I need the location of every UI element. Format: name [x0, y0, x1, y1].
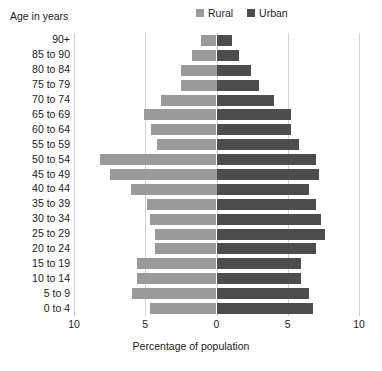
gridline [359, 33, 360, 316]
pyramid-row [74, 109, 359, 120]
bar-rural [132, 288, 216, 299]
bar-urban [217, 124, 291, 135]
pyramid-row [74, 95, 359, 106]
y-axis-tick-label: 60 to 64 [6, 123, 70, 135]
pyramid-row [74, 243, 359, 254]
bar-rural [155, 243, 216, 254]
bar-urban [217, 95, 274, 106]
pyramid-row [74, 273, 359, 284]
y-axis-tick-label: 70 to 74 [6, 93, 70, 105]
bar-urban [217, 303, 314, 314]
x-axis-tick-label: 5 [142, 318, 148, 330]
pyramid-row [74, 169, 359, 180]
bar-rural [144, 109, 217, 120]
bar-rural [137, 273, 217, 284]
pyramid-row [74, 139, 359, 150]
bar-urban [217, 214, 321, 225]
bar-urban [217, 109, 291, 120]
pyramid-row [74, 50, 359, 61]
pyramid-row [74, 303, 359, 314]
legend-label-rural: Rural [208, 8, 233, 19]
bar-urban [217, 199, 317, 210]
bar-rural [131, 184, 217, 195]
plot-area [74, 33, 359, 316]
pyramid-row [74, 35, 359, 46]
y-axis-tick-label: 50 to 54 [6, 153, 70, 165]
bar-rural [201, 35, 217, 46]
y-axis-tick-label: 85 to 90 [6, 48, 70, 60]
y-axis-tick-label: 20 to 24 [6, 242, 70, 254]
bar-rural [150, 303, 217, 314]
y-axis-tick-label: 0 to 4 [6, 302, 70, 314]
bar-rural [150, 214, 217, 225]
x-axis-tick-label: 10 [353, 318, 365, 330]
pyramid-row [74, 199, 359, 210]
pyramid-row [74, 65, 359, 76]
x-axis-tick-label: 5 [285, 318, 291, 330]
bar-rural [100, 154, 217, 165]
y-axis-tick-label: 45 to 49 [6, 168, 70, 180]
y-axis-tick-label: 65 to 69 [6, 108, 70, 120]
y-axis-tick-label: 90+ [6, 33, 70, 45]
bar-rural [157, 139, 217, 150]
y-axis-tick-label: 5 to 9 [6, 287, 70, 299]
pyramid-row [74, 184, 359, 195]
bar-urban [217, 288, 310, 299]
pyramid-row [74, 124, 359, 135]
bar-rural [192, 50, 216, 61]
pyramid-row [74, 80, 359, 91]
x-axis-tick-labels: 1050510 [74, 318, 359, 334]
bar-urban [217, 229, 325, 240]
bar-urban [217, 65, 251, 76]
bar-rural [181, 80, 217, 91]
bar-urban [217, 154, 317, 165]
x-axis-title: Percentage of population [0, 340, 382, 352]
x-axis-tick-label: 10 [68, 318, 80, 330]
bar-urban [217, 139, 300, 150]
y-axis-tick-label: 35 to 39 [6, 197, 70, 209]
bar-urban [217, 184, 310, 195]
y-axis-title: Age in years [10, 10, 68, 22]
y-axis-tick-label: 75 to 79 [6, 78, 70, 90]
y-axis-tick-label: 80 to 84 [6, 63, 70, 75]
bar-rural [137, 258, 217, 269]
y-axis-tick-labels: 90+85 to 9080 to 8475 to 7970 to 7465 to… [4, 33, 70, 316]
bar-rural [181, 65, 217, 76]
legend-swatch-urban [247, 9, 255, 17]
pyramid-row [74, 258, 359, 269]
bar-rural [147, 199, 217, 210]
bar-rural [155, 229, 216, 240]
bar-rural [161, 95, 217, 106]
population-pyramid-chart: Age in years Rural Urban 90+85 to 9080 t… [0, 0, 382, 371]
bar-urban [217, 169, 320, 180]
legend-label-urban: Urban [259, 8, 288, 19]
pyramid-row [74, 288, 359, 299]
bar-urban [217, 80, 260, 91]
bar-rural [110, 169, 217, 180]
bar-urban [217, 258, 301, 269]
y-axis-tick-label: 25 to 29 [6, 227, 70, 239]
chart-legend: Rural Urban [196, 8, 288, 19]
bar-urban [217, 50, 240, 61]
y-axis-tick-label: 10 to 14 [6, 272, 70, 284]
pyramid-row [74, 214, 359, 225]
bar-urban [217, 35, 233, 46]
y-axis-tick-label: 55 to 59 [6, 138, 70, 150]
pyramid-row [74, 229, 359, 240]
y-axis-tick-label: 15 to 19 [6, 257, 70, 269]
pyramid-row [74, 154, 359, 165]
y-axis-tick-label: 30 to 34 [6, 212, 70, 224]
bar-rural [151, 124, 217, 135]
legend-swatch-rural [196, 9, 204, 17]
x-axis-tick-label: 0 [214, 318, 220, 330]
y-axis-tick-label: 40 to 44 [6, 182, 70, 194]
legend-item-urban: Urban [247, 8, 288, 19]
bar-urban [217, 273, 301, 284]
bar-urban [217, 243, 317, 254]
legend-item-rural: Rural [196, 8, 233, 19]
